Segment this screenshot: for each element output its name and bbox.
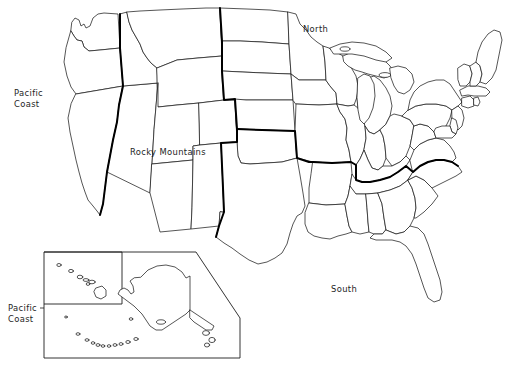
label-pacific-coast-main-line2: Coast — [14, 99, 40, 109]
united-states-map: Pacific Coast Rocky Mountains North Sout… — [0, 0, 520, 380]
label-north: North — [303, 24, 328, 34]
alaska-island-b — [209, 337, 215, 342]
map-figure: Pacific Coast Rocky Mountains North Sout… — [0, 0, 520, 380]
aleutian-6 — [101, 345, 105, 348]
island-molokai — [83, 279, 89, 282]
aleutian-11 — [134, 338, 138, 341]
label-rocky-mountains: Rocky Mountains — [130, 147, 206, 157]
aleutian-9 — [119, 343, 123, 346]
state-wyoming — [157, 56, 224, 107]
label-south: South — [331, 284, 357, 294]
island-maui — [89, 280, 95, 284]
state-arkansas — [309, 162, 352, 205]
aleutian-2 — [76, 333, 80, 336]
state-nebraska — [222, 71, 293, 100]
label-pacific-coast-inset-line1: Pacific — [8, 303, 37, 313]
alaska-island-c — [204, 343, 209, 347]
island-hawaii-big — [94, 286, 106, 299]
state-colorado — [199, 99, 237, 145]
aleutian-3 — [85, 339, 89, 342]
state-massachusetts — [460, 86, 490, 96]
aleutian-12 — [129, 318, 133, 321]
lake-erie-mark — [379, 73, 391, 78]
lake-superior-inner — [340, 47, 350, 51]
state-oklahoma — [237, 129, 297, 164]
aleutian-8 — [113, 344, 117, 347]
state-connecticut — [462, 96, 474, 108]
island-oahu — [77, 275, 83, 279]
state-kansas — [235, 99, 295, 131]
label-pacific-coast-inset-line2: Coast — [8, 314, 34, 324]
aleutian-7 — [107, 345, 111, 348]
aleutian-1 — [65, 316, 68, 318]
aleutian-10 — [126, 341, 130, 344]
state-north-dakota — [220, 8, 289, 44]
state-louisiana — [305, 203, 352, 239]
alaska-kodiak — [157, 320, 166, 324]
aleutian-5 — [96, 344, 100, 347]
label-pacific-coast-main-line1: Pacific — [14, 88, 43, 98]
island-kauai — [69, 269, 74, 272]
state-south-dakota — [222, 41, 291, 74]
alaska-island-a — [203, 331, 210, 336]
island-niihau — [57, 264, 61, 267]
aleutian-4 — [91, 342, 95, 345]
